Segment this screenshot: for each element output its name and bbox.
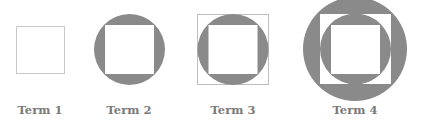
term-1-figure	[17, 27, 65, 74]
term-4-label: Term 4	[333, 103, 378, 117]
term-1-label: Term 1	[18, 103, 63, 117]
term-2-figure	[94, 14, 165, 85]
term-3-label: Term 3	[211, 103, 256, 117]
term-4-figure	[303, 0, 407, 101]
term-2-label: Term 2	[107, 103, 152, 117]
term-3-figure	[198, 14, 269, 85]
